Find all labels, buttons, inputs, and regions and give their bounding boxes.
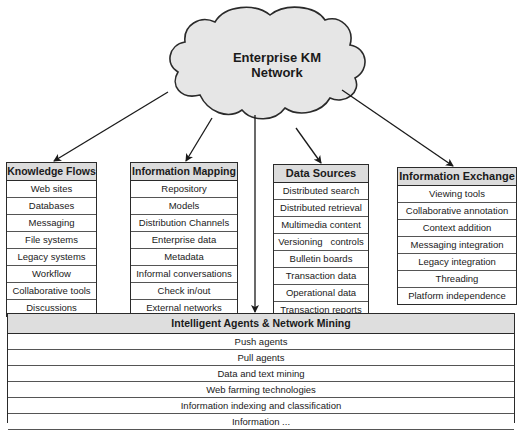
list-item: Context addition (398, 220, 516, 237)
list-item: Pull agents (8, 350, 514, 366)
list-item: Operational data (274, 285, 368, 302)
list-item: Multimedia content (274, 217, 368, 234)
list-item: Bulletin boards (274, 251, 368, 268)
box-title: Information Exchange (398, 168, 516, 186)
cloud-title-line2: Network (222, 65, 332, 80)
list-item: Distributed retrieval (274, 200, 368, 217)
cloud-title: Enterprise KM Network (222, 50, 332, 80)
arrow-to-data-sources (296, 128, 321, 163)
list-item: Workflow (7, 266, 96, 283)
list-item: Data and text mining (8, 366, 514, 382)
list-item: Information ... (8, 414, 514, 430)
list-item: Legacy integration (398, 254, 516, 271)
list-item: File systems (7, 232, 96, 249)
cloud-title-line1: Enterprise KM (222, 50, 332, 65)
box-title: Information Mapping (131, 163, 237, 181)
list-item: Metadata (131, 249, 237, 266)
box-title: Knowledge Flows (7, 163, 96, 181)
list-item: Collaborative tools (7, 283, 96, 300)
knowledge-flows-box: Knowledge Flows Web sites Databases Mess… (6, 162, 97, 317)
list-item: Informal conversations (131, 266, 237, 283)
list-item: Viewing tools (398, 186, 516, 203)
list-item: Messaging integration (398, 237, 516, 254)
list-item: Repository (131, 181, 237, 198)
box-title: Data Sources (274, 165, 368, 183)
box-title: Intelligent Agents & Network Mining (8, 314, 514, 334)
list-item: Transaction data (274, 268, 368, 285)
list-item: Web farming technologies (8, 382, 514, 398)
list-item: Push agents (8, 334, 514, 350)
arrow-to-information-exchange (342, 90, 453, 166)
arrow-to-information-mapping (186, 118, 212, 161)
list-item: Platform independence (398, 288, 516, 304)
list-item: Distribution Channels (131, 215, 237, 232)
list-item: Models (131, 198, 237, 215)
information-exchange-box: Information Exchange Viewing tools Colla… (397, 167, 517, 305)
list-item: Information indexing and classification (8, 398, 514, 414)
list-item: Distributed search (274, 183, 368, 200)
list-item: Messaging (7, 215, 96, 232)
list-item: Threading (398, 271, 516, 288)
arrow-to-knowledge-flows (54, 92, 168, 161)
list-item: Check in/out (131, 283, 237, 300)
list-item: Legacy systems (7, 249, 96, 266)
data-sources-box: Data Sources Distributed search Distribu… (273, 164, 369, 319)
list-item: Enterprise data (131, 232, 237, 249)
information-mapping-box: Information Mapping Repository Models Di… (130, 162, 238, 317)
list-item: Databases (7, 198, 96, 215)
list-item: Versioning controls (274, 234, 368, 251)
list-item: Collaborative annotation (398, 203, 516, 220)
intelligent-agents-box: Intelligent Agents & Network Mining Push… (7, 313, 515, 423)
list-item: Web sites (7, 181, 96, 198)
